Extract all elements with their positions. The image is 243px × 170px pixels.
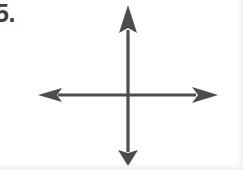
arrowhead-up-icon [119,5,137,33]
worksheet-figure-page: 5. [0,0,243,170]
arrowhead-down-icon [118,150,138,166]
axes-cross-figure [0,0,243,170]
